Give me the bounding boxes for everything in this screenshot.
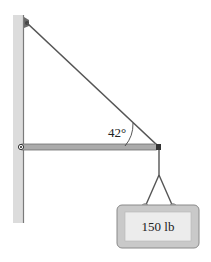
statics-diagram: 42° 150 lb xyxy=(0,0,211,262)
support-cable xyxy=(27,23,158,146)
angle-label: 42° xyxy=(108,125,126,140)
hanging-rope xyxy=(145,150,173,207)
boom xyxy=(18,144,161,150)
boom-end-cap xyxy=(156,144,161,150)
load-box: 150 lb xyxy=(117,205,199,248)
wall xyxy=(13,15,24,223)
cable-anchor xyxy=(24,17,29,28)
load-label: 150 lb xyxy=(142,219,175,234)
